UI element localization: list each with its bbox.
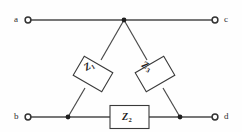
impedance-z1-box (73, 56, 113, 92)
wire-left-diagonal-upper (101, 20, 124, 60)
terminal-circle-a[interactable] (25, 17, 31, 23)
terminal-label-d: d (224, 112, 229, 121)
junction-dot-bottom-left (66, 115, 71, 120)
terminal-circle-b[interactable] (25, 114, 31, 120)
junction-dot-bottom-right (178, 115, 183, 120)
wire-right-diagonal-lower (163, 88, 180, 117)
wire-left-diagonal-lower (68, 88, 85, 117)
terminal-label-a: a (14, 15, 18, 24)
circuit-schematic-svg (0, 0, 242, 132)
impedance-label-z2-subscript: 2 (128, 116, 131, 123)
terminal-label-b: b (14, 112, 19, 121)
wires-group (31, 20, 212, 117)
junction-dot-apex (122, 18, 127, 23)
terminal-circle-c[interactable] (212, 17, 218, 23)
wire-right-diagonal-upper (124, 20, 147, 60)
impedance-label-z2: Z2 (122, 112, 131, 122)
circuit-diagram-canvas: a c b d Z1 Z3 Z2 (0, 0, 242, 132)
terminal-circles-group (25, 17, 218, 120)
impedance-z3-box (135, 56, 175, 92)
terminal-label-c: c (224, 15, 228, 24)
terminal-circle-d[interactable] (212, 114, 218, 120)
